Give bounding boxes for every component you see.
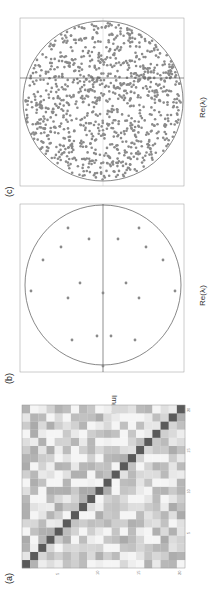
matrix-cell [152, 438, 160, 446]
matrix-cell [95, 511, 103, 519]
matrix-cell [177, 421, 185, 429]
eigenvalue-point [111, 105, 114, 108]
matrix-cell [112, 503, 120, 511]
matrix-cell [79, 552, 87, 560]
panel-c-xlabel: Re(λᵢ) [198, 97, 207, 118]
eigenvalue-point [43, 99, 46, 102]
matrix-diagonal-cell [161, 421, 169, 429]
matrix-cell [71, 413, 79, 421]
eigenvalue-point [74, 103, 77, 106]
matrix-cell [144, 446, 152, 454]
eigenvalue-point [86, 112, 89, 115]
matrix-cell [128, 429, 136, 437]
eigenvalue-point [153, 109, 156, 112]
eigenvalue-point [88, 90, 91, 93]
eigenvalue-point [168, 74, 171, 77]
eigenvalue-point [26, 120, 29, 123]
matrix-cell [55, 454, 63, 462]
matrix-cell [22, 462, 30, 470]
eigenvalue-point [165, 71, 168, 74]
eigenvalue-point [48, 142, 51, 145]
matrix-cell [46, 429, 54, 437]
eigenvalue-point [55, 91, 58, 94]
eigenvalue-point [37, 122, 40, 125]
eigenvalue-point [146, 50, 149, 53]
eigenvalue-point [116, 108, 119, 111]
eigenvalue-point [120, 132, 123, 135]
eigenvalue-point [34, 95, 37, 98]
panel-b-label: (b) [4, 373, 14, 384]
eigenvalue-point [126, 119, 129, 122]
eigenvalue-point [92, 86, 95, 89]
matrix-cell [128, 519, 136, 527]
eigenvalue-point [58, 75, 61, 78]
eigenvalue-point [64, 137, 67, 140]
eigenvalue-point [94, 148, 97, 151]
matrix-cell [46, 405, 54, 413]
eigenvalue-point [106, 64, 109, 67]
matrix-cell [136, 519, 144, 527]
eigenvalue-point [162, 101, 165, 104]
eigenvalue-point [99, 153, 102, 156]
eigenvalue-point [59, 159, 62, 162]
matrix-cell [22, 454, 30, 462]
matrix-cell [152, 503, 160, 511]
eigenvalue-point [129, 97, 132, 100]
eigenvalue-point [176, 114, 179, 117]
matrix-cell [144, 544, 152, 552]
eigenvalue-point [156, 91, 159, 94]
eigenvalue-point [138, 104, 141, 107]
matrix-cell [71, 527, 79, 535]
matrix-cell [22, 470, 30, 478]
matrix-cell [63, 413, 71, 421]
matrix-cell [79, 527, 87, 535]
matrix-cell [55, 487, 63, 495]
eigenvalue-point [125, 140, 128, 143]
matrix-cell [30, 429, 38, 437]
eigenvalue-point [105, 152, 108, 155]
eigenvalue-point [119, 33, 122, 36]
eigenvalue-point [172, 135, 175, 138]
matrix-cell [112, 446, 120, 454]
matrix-cell [30, 544, 38, 552]
eigenvalue-point [55, 146, 58, 149]
eigenvalue-point [132, 130, 135, 133]
eigenvalue-point [153, 125, 156, 128]
matrix-diagonal-cell [22, 560, 30, 568]
eigenvalue-point [57, 132, 60, 135]
eigenvalue-point [116, 135, 119, 138]
matrix-cell [104, 487, 112, 495]
matrix-cell [46, 560, 54, 568]
eigenvalue-point [116, 148, 119, 151]
eigenvalue-point [50, 91, 53, 94]
eigenvalue-point [62, 116, 65, 119]
matrix-diagonal-cell [112, 470, 120, 478]
eigenvalue-point [100, 72, 103, 75]
eigenvalue-point [102, 161, 105, 164]
matrix-cell [169, 535, 177, 543]
eigenvalue-point [123, 94, 126, 97]
eigenvalue-point [75, 117, 78, 120]
eigenvalue-point [171, 73, 174, 76]
eigenvalue-point [129, 60, 132, 63]
eigenvalue-point [128, 37, 131, 40]
eigenvalue-point [151, 97, 154, 100]
matrix-cell [112, 405, 120, 413]
eigenvalue-point [48, 45, 51, 48]
eigenvalue-point [134, 120, 137, 123]
eigenvalue-point [164, 138, 167, 141]
eigenvalue-point [75, 42, 78, 45]
eigenvalue-point [116, 86, 119, 89]
matrix-cell [120, 495, 128, 503]
eigenvalue-point [160, 87, 163, 90]
eigenvalue-point [151, 50, 154, 53]
eigenvalue-point [166, 101, 169, 104]
matrix-cell [38, 429, 46, 437]
matrix-diagonal-cell [120, 462, 128, 470]
eigenvalue-point [165, 145, 168, 148]
eigenvalue-point [98, 97, 101, 100]
matrix-cell [22, 429, 30, 437]
eigenvalue-point [123, 61, 126, 64]
matrix-cell [161, 405, 169, 413]
eigenvalue-point [73, 156, 76, 159]
